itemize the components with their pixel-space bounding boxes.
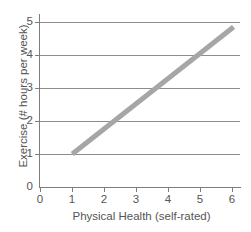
gridline-y-2 xyxy=(40,121,240,122)
y-tick-1 xyxy=(35,154,40,155)
x-tick-label-3: 3 xyxy=(126,193,146,205)
x-tick-5 xyxy=(200,187,201,192)
x-tick-label-1: 1 xyxy=(62,193,82,205)
x-tick-label-5: 5 xyxy=(190,193,210,205)
gridline-y-3 xyxy=(40,88,240,89)
chart-container: 5 4 3 2 1 0 0 1 2 3 4 5 6 Physical Healt… xyxy=(0,0,251,232)
gridline-y-4 xyxy=(40,55,240,56)
x-axis-title: Physical Health (self-rated) xyxy=(0,210,251,222)
y-tick-3 xyxy=(35,88,40,89)
x-tick-3 xyxy=(136,187,137,192)
x-tick-label-6: 6 xyxy=(222,193,242,205)
x-tick-2 xyxy=(104,187,105,192)
gridline-y-5 xyxy=(40,22,240,23)
x-tick-0 xyxy=(40,187,41,192)
x-tick-label-2: 2 xyxy=(94,193,114,205)
plot-area xyxy=(40,22,240,187)
y-axis-title: Exercise (# hours per week) xyxy=(17,6,29,186)
y-tick-2 xyxy=(35,121,40,122)
y-tick-4 xyxy=(35,55,40,56)
x-tick-1 xyxy=(72,187,73,192)
x-tick-label-4: 4 xyxy=(158,193,178,205)
gridline-y-1 xyxy=(40,154,240,155)
x-tick-6 xyxy=(232,187,233,192)
x-tick-4 xyxy=(168,187,169,192)
y-tick-5 xyxy=(35,22,40,23)
x-axis-line xyxy=(39,187,241,188)
y-axis-line xyxy=(39,14,40,188)
x-tick-label-0: 0 xyxy=(30,193,50,205)
